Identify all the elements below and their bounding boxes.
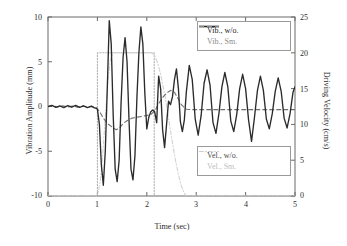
dashdot-line-icon [198, 147, 220, 156]
plot-area [0, 0, 347, 246]
legend-velocity: Vel., w/o. Vel., Sm. [197, 146, 291, 176]
legend-label: Vib., Sm. [207, 37, 237, 46]
legend-item: Vel., Sm. [203, 161, 285, 172]
legend-item: Vib., Sm. [203, 36, 285, 47]
dashed-line-icon [198, 22, 220, 31]
series-line-vib-sm [48, 90, 295, 129]
vibration-velocity-chart: Vibration Amplitude (mm) Driving Velocit… [0, 0, 347, 246]
legend-vibration: Vib., w/o. Vib., Sm. [197, 21, 291, 51]
legend-label: Vel., Sm. [207, 162, 236, 171]
